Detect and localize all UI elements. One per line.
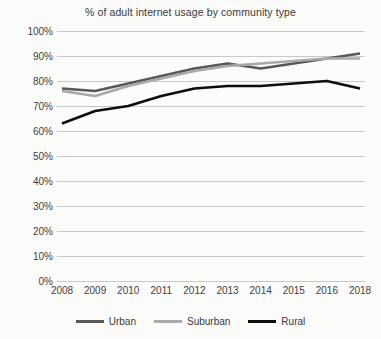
y-axis-tick-label: 10% bbox=[5, 251, 53, 262]
legend-item-suburban[interactable]: Suburban bbox=[154, 316, 230, 327]
x-axis-tick-label: 2012 bbox=[177, 285, 211, 296]
x-axis-tick-label: 2010 bbox=[111, 285, 145, 296]
x-axis-tick-label: 2011 bbox=[144, 285, 178, 296]
series-line-suburban bbox=[62, 59, 360, 97]
x-axis-tick-label: 2014 bbox=[244, 285, 278, 296]
legend-swatch-icon bbox=[154, 320, 182, 323]
legend-swatch-icon bbox=[248, 320, 276, 323]
y-axis-tick-label: 60% bbox=[5, 126, 53, 137]
legend-label: Urban bbox=[109, 316, 136, 327]
y-axis-tick-label: 50% bbox=[5, 151, 53, 162]
chart-legend: UrbanSuburbanRural bbox=[0, 316, 381, 327]
x-axis-tick-label: 2013 bbox=[211, 285, 245, 296]
series-lines bbox=[57, 31, 365, 281]
y-axis: 0%10%20%30%40%50%60%70%80%90%100% bbox=[0, 31, 53, 281]
plot-area bbox=[57, 31, 365, 281]
legend-swatch-icon bbox=[76, 320, 104, 323]
y-axis-tick-label: 20% bbox=[5, 226, 53, 237]
chart-container: % of adult internet usage by community t… bbox=[0, 0, 381, 339]
x-axis-tick-label: 2016 bbox=[310, 285, 344, 296]
x-axis-tick-label: 2018 bbox=[343, 285, 377, 296]
y-axis-tick-label: 40% bbox=[5, 176, 53, 187]
legend-item-urban[interactable]: Urban bbox=[76, 316, 136, 327]
x-axis-tick-label: 2015 bbox=[277, 285, 311, 296]
y-axis-tick-label: 30% bbox=[5, 201, 53, 212]
x-axis-tick-label: 2008 bbox=[45, 285, 79, 296]
x-axis-tick-label: 2009 bbox=[78, 285, 112, 296]
gridline bbox=[57, 281, 365, 282]
y-axis-tick-label: 100% bbox=[5, 26, 53, 37]
legend-label: Suburban bbox=[187, 316, 230, 327]
y-axis-tick-label: 80% bbox=[5, 76, 53, 87]
chart-title: % of adult internet usage by community t… bbox=[0, 6, 381, 18]
legend-label: Rural bbox=[281, 316, 305, 327]
legend-item-rural[interactable]: Rural bbox=[248, 316, 305, 327]
x-axis: 2008200920102011201220132014201520162018 bbox=[57, 285, 365, 301]
y-axis-tick-label: 70% bbox=[5, 101, 53, 112]
y-axis-tick-label: 90% bbox=[5, 51, 53, 62]
